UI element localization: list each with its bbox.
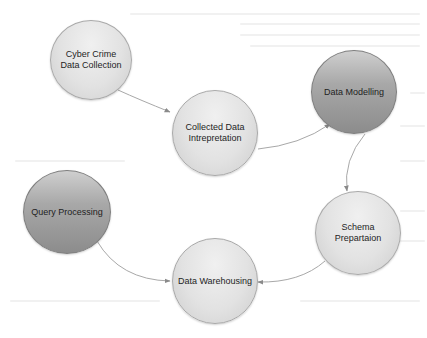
node-cyber-crime-data-collection: Cyber Crime Data Collection <box>50 20 132 100</box>
node-label: Data Modelling <box>320 87 388 98</box>
edge-query-to-warehousing <box>97 241 170 281</box>
edge-schema-to-warehousing <box>258 261 325 282</box>
node-label: Collected Data Intrepretation <box>173 122 257 144</box>
node-data-warehousing: Data Warehousing <box>172 238 258 324</box>
edge-interpretation-to-modelling <box>258 124 330 149</box>
node-schema-preparation: Schema Prepartaion <box>315 191 401 275</box>
node-label: Query Processing <box>27 207 107 218</box>
node-label: Data Warehousing <box>174 276 256 287</box>
node-data-modelling: Data Modelling <box>311 50 397 134</box>
node-label: Cyber Crime Data Collection <box>51 49 131 71</box>
diagram-canvas: Cyber Crime Data Collection Collected Da… <box>0 0 427 338</box>
edge-collection-to-interpretation <box>118 90 170 112</box>
node-label: Schema Prepartaion <box>316 222 400 244</box>
edge-modelling-to-schema <box>346 134 365 191</box>
node-query-processing: Query Processing <box>23 170 111 254</box>
node-collected-data-interpretation: Collected Data Intrepretation <box>172 90 258 176</box>
